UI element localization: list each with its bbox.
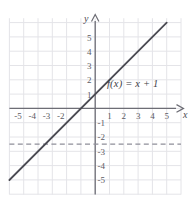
x-tick-label: 2 (122, 112, 127, 121)
y-tick-label: 5 (87, 34, 92, 43)
x-tick-label: 3 (136, 112, 141, 121)
x-tick-label: 4 (150, 112, 155, 121)
function-equation-label: f(x) = x + 1 (107, 79, 159, 90)
graph-figure: y x f(x) = x + 1 -5 -4 -3 -2 1 2 3 4 5 5… (0, 0, 195, 200)
y-tick-label: 4 (87, 48, 92, 57)
x-tick-label: -3 (43, 112, 51, 121)
y-tick-label: -5 (98, 176, 106, 185)
y-tick-label: 2 (87, 76, 92, 85)
x-tick-label: 1 (107, 112, 112, 121)
y-axis-label: y (84, 14, 88, 24)
x-tick-label: -4 (29, 112, 37, 121)
x-tick-label: 5 (165, 112, 170, 121)
x-axis-label: x (183, 110, 187, 120)
y-tick-label: 1 (87, 91, 92, 100)
y-tick-label: 3 (87, 62, 92, 71)
y-tick-label: -3 (98, 148, 106, 157)
y-tick-label: -1 (98, 119, 106, 128)
x-tick-label: -2 (57, 112, 65, 121)
y-tick-label: -2 (98, 133, 106, 142)
y-tick-label: -4 (98, 162, 106, 171)
x-tick-label: -5 (14, 112, 22, 121)
